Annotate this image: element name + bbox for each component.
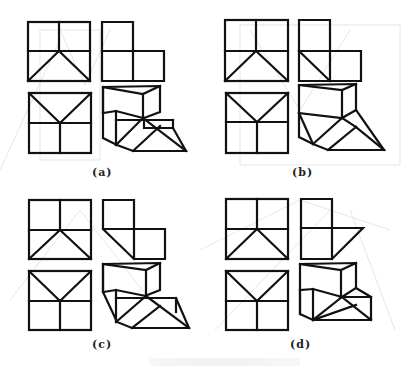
side-view-d <box>301 199 363 259</box>
orthographic-projection-figure: (a) (b) (c) (d) <box>0 0 410 372</box>
top-view-b <box>226 93 288 153</box>
panel-c <box>29 200 189 330</box>
top-view-c <box>29 271 91 330</box>
figure-canvas <box>0 0 410 372</box>
panel-label-c: (c) <box>92 338 112 351</box>
side-view-c <box>103 200 165 259</box>
isometric-view-c <box>103 263 189 328</box>
panel-label-a: (a) <box>92 166 113 179</box>
isometric-view-d <box>300 263 371 320</box>
front-view-d <box>226 199 288 259</box>
panel-b <box>225 20 384 153</box>
front-view-c <box>29 200 91 259</box>
isometric-view-b <box>299 84 384 150</box>
isometric-view-a <box>103 86 186 151</box>
side-view-b <box>299 20 361 81</box>
panel-d <box>226 199 371 330</box>
top-view-a <box>29 93 91 153</box>
panel-label-b: (b) <box>292 166 313 179</box>
side-view-a <box>102 22 164 81</box>
panel-label-d: (d) <box>290 338 311 351</box>
panel-a <box>28 22 186 153</box>
front-view-a <box>28 22 90 81</box>
bleed-through-caption <box>150 358 300 366</box>
front-view-b <box>225 20 288 81</box>
top-view-d <box>226 271 288 330</box>
